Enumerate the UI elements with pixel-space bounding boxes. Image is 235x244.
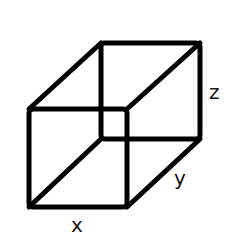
label-z: z	[209, 80, 220, 104]
box-diagram: x y z	[0, 0, 235, 244]
edge-top-right	[127, 43, 200, 109]
edge-bottom-left	[29, 139, 101, 207]
label-y: y	[174, 166, 186, 190]
edge-bottom-right	[127, 139, 200, 207]
label-x: x	[71, 213, 83, 237]
edge-top-left	[29, 43, 101, 109]
